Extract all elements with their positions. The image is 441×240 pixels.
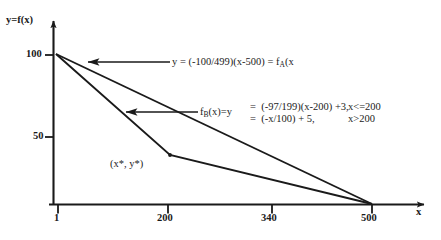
equation-fb-branch-1: = (-97/199)(x-200) +3, bbox=[250, 101, 349, 112]
equation-fb-condition-1: x<=200 bbox=[348, 101, 381, 112]
y-axis bbox=[45, 21, 54, 205]
optimum-point-label: (x*, y*) bbox=[110, 158, 143, 169]
equation-fa: y = (-100/499)(x-500) = fA(x bbox=[172, 56, 294, 69]
x-tick-label-500: 500 bbox=[361, 212, 377, 223]
x-tick-label-1: 1 bbox=[54, 212, 59, 223]
kink-point-marker bbox=[168, 153, 172, 157]
equation-fa-main: y = (-100/499)(x-500) = f bbox=[172, 56, 280, 67]
x-tick-label-340: 340 bbox=[261, 212, 277, 223]
equation-fb-condition-2: x>200 bbox=[348, 113, 375, 124]
x-axis-label: x bbox=[416, 206, 421, 217]
equation-fa-tail: (x bbox=[285, 56, 294, 67]
equation-fb-head: fB(x)=y bbox=[200, 106, 232, 119]
x-tick-label-200: 200 bbox=[157, 212, 173, 223]
equation-fb-head-tail: (x)=y bbox=[209, 106, 232, 117]
equation-fb-branch-2: = (-x/100) + 5, bbox=[250, 113, 315, 124]
y-axis-label: y=f(x) bbox=[6, 14, 33, 25]
figure-canvas: y=f(x) x 100 50 1 200 340 500 y = (-100/… bbox=[0, 0, 441, 240]
curve-fa bbox=[56, 54, 372, 204]
y-tick-label-100: 100 bbox=[26, 48, 42, 59]
y-tick-label-50: 50 bbox=[33, 130, 44, 141]
